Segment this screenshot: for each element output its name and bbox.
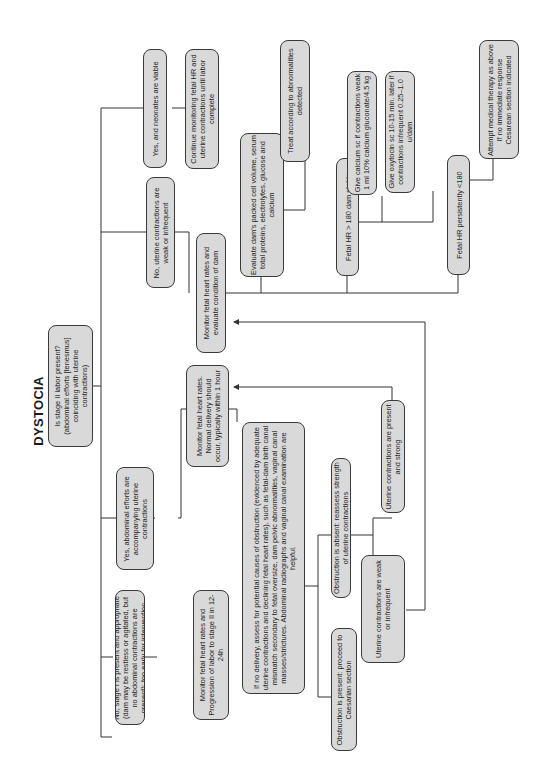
uterine-strong-text: Uterine contractions are present and str… (384, 402, 402, 512)
no-uterine-weak-node: No, uterine contractions are weak or inf… (146, 177, 175, 288)
give-oxytocin-node: Give oxytocin sc 10-15 min. later if con… (385, 71, 415, 193)
obstruction-absent-node: Obstruction is absent: reassess strength… (331, 458, 351, 598)
no-delivery-node: If no delivery, assess for potential cau… (242, 422, 305, 694)
continue-monitoring-text: Continue monitoring fetal HR and uterine… (189, 51, 216, 167)
no-delivery-text: If no delivery, assess for potential cau… (251, 425, 296, 691)
monitor-stage2-node: Monitor fetal heart rates and Progressio… (193, 590, 229, 720)
give-oxytocin-text: Give oxytocin sc 10-15 min. later if con… (387, 73, 414, 191)
obstruction-present-text: Obstruction is present: proceed to Caesa… (335, 630, 353, 750)
monitor-stage2-text: Monitor fetal heart rates and Progressio… (198, 593, 225, 717)
yes-abdominal-text: Yes, abdominal efforts are accompanying … (122, 470, 149, 568)
uterine-weak-node: Uterine contractions are weak or infrequ… (361, 555, 405, 663)
dystocia-flowchart: DYSTOCIA Is stage II labor present? (abd… (0, 0, 552, 778)
treat-abnormalities-node: Treat according to abnormalities detecte… (280, 40, 310, 162)
uterine-strong-node: Uterine contractions are present and str… (381, 400, 405, 513)
yes-viable-text: Yes, and neonates are viable (151, 51, 160, 166)
fetal-hr-low-text: Fetal HR persistently <180 (454, 157, 463, 273)
no-uterine-weak-text: No, uterine contractions are weak or inf… (152, 179, 170, 286)
yes-abdominal-node: Yes, abdominal efforts are accompanying … (116, 467, 154, 570)
continue-monitoring-node: Continue monitoring fetal HR and uterine… (185, 49, 219, 169)
evaluate-bloodwork-text: Evaluate dam's packed cell volume, serum… (249, 135, 276, 275)
uterine-weak-text: Uterine contractions are weak or infrequ… (374, 558, 392, 660)
yes-viable-node: Yes, and neonates are viable (143, 49, 167, 168)
stage2-question-node: Is stage II labor present? (abdominal ef… (48, 325, 93, 447)
no-stage1-text: No, stage I is present and appropriate (… (115, 593, 145, 723)
fetal-hr-low-node: Fetal HR persistently <180 (447, 155, 470, 275)
stage2-question-text: Is stage II labor present? (abdominal ef… (53, 328, 89, 444)
give-calcium-text: Give calcium sc if contractions weak 1 m… (353, 73, 371, 193)
give-calcium-node: Give calcium sc if contractions weak 1 m… (347, 71, 377, 195)
diagram-title: DYSTOCIA (31, 376, 46, 445)
monitor-evaluate-dam-node: Monitor fetal heart rates and evaluate c… (196, 233, 226, 353)
attempt-medical-text: Attempt medical therapy as above If no i… (486, 42, 513, 157)
treat-abnormalities-text: Treat according to abnormalities detecte… (286, 42, 304, 160)
monitor-normal-text: Monitor fetal heart rates. Normal delive… (194, 368, 221, 464)
monitor-evaluate-dam-text: Monitor fetal heart rates and evaluate c… (202, 235, 220, 351)
monitor-normal-node: Monitor fetal heart rates. Normal delive… (186, 365, 229, 467)
attempt-medical-node: Attempt medical therapy as above If no i… (479, 40, 519, 159)
obstruction-present-node: Obstruction is present: proceed to Caesa… (331, 628, 357, 751)
obstruction-absent-text: Obstruction is absent: reassess strength… (332, 460, 350, 596)
no-stage1-node: No, stage I is present and appropriate (… (115, 590, 145, 725)
evaluate-bloodwork-node: Evaluate dam's packed cell volume, serum… (240, 133, 284, 277)
